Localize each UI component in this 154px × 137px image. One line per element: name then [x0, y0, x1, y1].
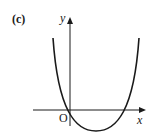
- graph-canvas: [0, 0, 154, 137]
- x-axis-arrow-icon: [139, 107, 146, 113]
- parabola-curve: [53, 38, 139, 131]
- y-axis-arrow-icon: [67, 17, 73, 24]
